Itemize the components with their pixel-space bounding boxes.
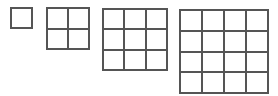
grid-1x1 [10,7,33,29]
grid-cell [124,50,145,70]
grid-cell [180,72,202,93]
grid-cell [246,10,268,31]
grid-3x3 [102,8,168,71]
grid-cell [246,72,268,93]
grid-cell [146,29,167,49]
grid-cell [47,29,68,50]
grid-cell [246,31,268,52]
grid-cell [146,50,167,70]
grid-cell [224,52,246,73]
grid-cell [202,31,224,52]
grid-cell [124,29,145,49]
grid-cell [180,10,202,31]
grid-cell [68,8,89,29]
grid-cell [146,9,167,29]
grid-cell [224,31,246,52]
grid-2x2 [46,7,90,50]
grid-cell [11,8,32,28]
grid-cell [103,29,124,49]
grid-cell [180,31,202,52]
grid-cell [202,10,224,31]
grid-cell [103,9,124,29]
grid-cell [47,8,68,29]
grid-cell [202,72,224,93]
grid-cell [124,9,145,29]
grid-cell [202,52,224,73]
grid-4x4 [179,9,269,94]
grid-cell [224,72,246,93]
grid-cell [246,52,268,73]
grid-cell [180,52,202,73]
grid-cell [103,50,124,70]
grid-cell [224,10,246,31]
grid-cell [68,29,89,50]
